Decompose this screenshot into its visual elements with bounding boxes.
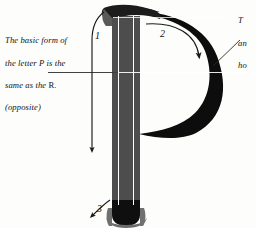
left-note-line-1: The basic form of <box>5 35 91 46</box>
right-annotation-note: T an ho <box>238 4 256 82</box>
right-note-line-1: T <box>238 15 256 26</box>
step-number-3: 3 <box>97 203 102 214</box>
step-number-2: 2 <box>160 28 165 39</box>
left-note-line-3: same as the R. <box>5 80 91 91</box>
letter-stem <box>102 5 161 228</box>
left-note-line-2: the letter P is the <box>5 58 91 69</box>
left-note-line-3a: same as the <box>5 80 48 90</box>
diagram-canvas: The basic form of the letter P is the sa… <box>0 0 256 228</box>
right-note-line-2: an <box>238 38 256 49</box>
left-note-line-3b: R. <box>48 80 56 90</box>
left-annotation-note: The basic form of the letter P is the sa… <box>5 24 91 125</box>
left-note-line-4: (opposite) <box>5 102 91 113</box>
step-number-1: 1 <box>95 30 100 41</box>
right-note-line-3: ho <box>238 60 256 71</box>
leader-line-right <box>213 40 240 66</box>
